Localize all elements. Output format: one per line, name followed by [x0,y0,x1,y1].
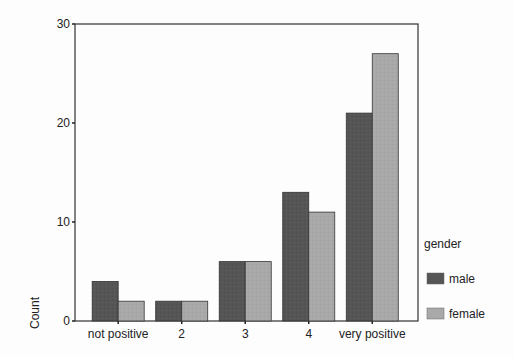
legend: gender malefemale [424,237,485,321]
legend-label-female: female [449,307,485,321]
bar-male [283,192,309,321]
y-tick-label: 30 [57,17,71,31]
legend-swatch-male [427,273,444,284]
bar-female [182,301,208,321]
x-tick-label: 2 [178,327,185,341]
bar-male [346,113,372,321]
bar-female [118,301,144,321]
legend-title: gender [424,237,461,251]
legend-label-male: male [449,272,475,286]
bar-male [219,262,245,321]
x-axis: not positive234very positive [88,321,406,341]
y-tick-label: 20 [57,116,71,130]
x-tick-label: very positive [339,327,406,341]
bars [92,54,398,321]
legend-swatch-female [427,308,444,319]
y-tick-label: 0 [63,314,70,328]
y-axis: 0102030 [57,17,75,328]
x-tick-label: 4 [305,327,312,341]
bar-female [309,212,335,321]
bar-female [245,262,271,321]
y-tick-label: 10 [57,215,71,229]
x-tick-label: 3 [242,327,249,341]
bar-chart: 0102030 not positive234very positive Cou… [0,0,514,357]
bar-female [372,54,398,321]
x-tick-label: not positive [88,327,149,341]
bar-male [92,281,118,321]
y-axis-label: Count [28,296,42,329]
bar-male [156,301,182,321]
